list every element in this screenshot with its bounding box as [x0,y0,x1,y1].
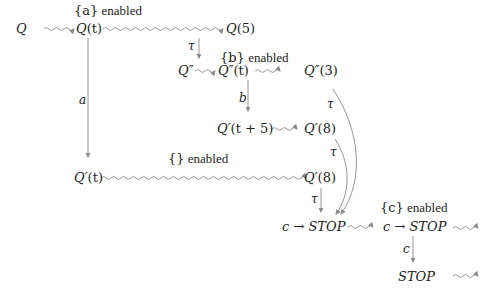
node-Qppt-q: Q″ [218,63,234,78]
node-cstop2: c → STOP [383,220,446,233]
annotation-c-enabled: {c} enabled [380,201,448,214]
node-Q5: Q(5) [226,22,255,35]
node-Qpp3-q: Q″ [304,63,320,78]
edge-label-b: b [239,92,247,104]
c-enabled-word: enabled [404,200,448,215]
node-Qpt5: Q′(t + 5) [217,122,273,135]
node-Qpp-label: Q″ [178,63,194,78]
node-Qp8a-arg: (8) [318,121,336,136]
node-Qp8b-arg: (8) [318,170,336,185]
a-enabled-set: {a} [74,3,98,18]
edge-label-tau-1: τ [188,40,195,52]
label-a: a [79,93,86,107]
node-Qpp: Q″ [178,64,194,77]
tau-1: τ [188,39,195,53]
label-b: b [239,91,247,105]
node-Q5-arg: (5) [237,21,255,36]
node-stop: STOP [398,270,435,283]
node-Qpt-q: Q′ [74,170,88,185]
a-enabled-word: enabled [98,3,142,18]
diagram-edges [0,0,498,296]
node-stop-label: STOP [398,269,435,284]
node-Qp8b: Q′(8) [304,171,336,184]
node-Qp8a: Q′(8) [304,122,336,135]
wavy-edge-Q-Qt [44,28,74,31]
empty-enabled-word: enabled [185,151,229,166]
label-c: c [403,242,410,256]
node-Qt-q: Q [76,21,87,36]
node-Q: Q [16,22,27,35]
node-Qt-arg: (t) [87,21,102,36]
node-Qpt5-q: Q′ [217,121,231,136]
wavy-edge-Qpt5-Qp8a [272,128,297,131]
node-Qpp3-arg: (3) [320,63,338,78]
b-enabled-set: {b} [220,50,245,65]
tau-3: τ [330,145,337,159]
node-Qt: Q(t) [76,22,102,35]
annotation-b-enabled: {b} enabled [220,51,289,64]
wavy-edge-stop-out [453,275,478,278]
node-Q5-q: Q [226,21,237,36]
c-enabled-set: {c} [380,200,404,215]
node-Qppt: Q″(t) [218,64,249,77]
wavy-edge-Qpt-Qp8b [101,177,306,180]
node-cstop1-arrow: → [289,219,308,234]
tau-2: τ [327,97,334,111]
b-enabled-word: enabled [245,50,289,65]
node-cstop2-stop: STOP [409,219,446,234]
edge-label-tau-3: τ [330,146,337,158]
node-Qpt-arg: (t) [88,170,103,185]
empty-enabled-set: {} [168,151,185,166]
node-Qp8a-q: Q′ [304,121,318,136]
edge-label-tau-4: τ [311,193,318,205]
node-Qp8b-q: Q′ [304,170,318,185]
wavy-edge-cstop2-out [453,227,478,230]
wavy-edge-Qppt-Qpp3 [255,70,280,73]
diagram-canvas: Q Q(t) Q(5) Q″ Q″(t) Q″(3) Q′(t + 5) Q′(… [0,0,498,296]
wavy-edge-Qpp-Qppt [195,70,215,73]
node-Qpt5-arg: (t + 5) [231,121,274,136]
wavy-edge-cstop1-cstop2 [348,226,373,229]
wavy-edge-Qt-Q5 [103,28,223,31]
tau-4: τ [311,192,318,206]
edge-label-a: a [79,94,86,106]
node-Qpp3: Q″(3) [304,64,338,77]
node-cstop1-stop: STOP [308,219,345,234]
annotation-a-enabled: {a} enabled [74,4,142,17]
edge-label-c: c [403,243,410,255]
node-cstop1: c → STOP [282,220,345,233]
node-Q-label: Q [16,21,27,36]
node-Qpt: Q′(t) [74,171,103,184]
annotation-empty-enabled: {} enabled [168,152,228,165]
edge-label-tau-2: τ [327,98,334,110]
node-Qppt-arg: (t) [234,63,249,78]
node-cstop2-arrow: → [390,219,409,234]
